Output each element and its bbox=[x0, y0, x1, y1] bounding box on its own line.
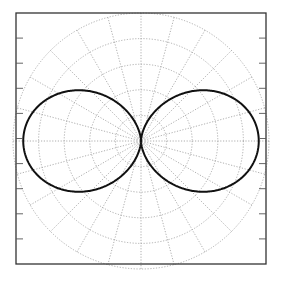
polar-plot bbox=[0, 0, 281, 287]
